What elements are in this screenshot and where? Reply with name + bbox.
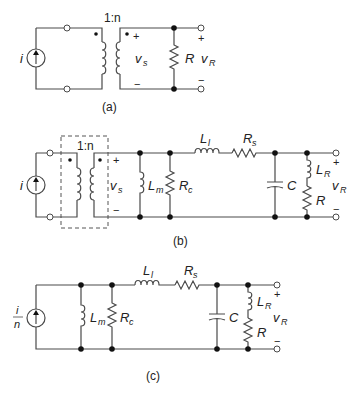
svg-text:n: n [14, 318, 20, 330]
svg-text:+: + [113, 154, 119, 166]
core-loss-resistor-icon [166, 153, 174, 217]
turns-ratio-label: 1:n [104, 11, 121, 25]
svg-text:v: v [332, 178, 340, 193]
current-source-icon [27, 176, 45, 194]
magnetizing-inductor-icon [140, 153, 144, 217]
svg-text:R: R [257, 325, 266, 340]
svg-text:s: s [118, 185, 123, 195]
svg-text:L: L [143, 263, 150, 278]
svg-text:R: R [316, 193, 325, 208]
svg-text:R: R [184, 263, 193, 278]
svg-text:+: + [333, 156, 339, 168]
secondary-coil-icon [116, 42, 120, 74]
current-source-icon [27, 309, 45, 327]
turns-ratio-label: 1:n [77, 139, 94, 153]
svg-text:R: R [179, 178, 188, 193]
svg-text:c: c [129, 317, 134, 327]
polarity-dot-icon [94, 32, 98, 36]
core-loss-resistor-icon [108, 285, 116, 349]
svg-text:L: L [90, 310, 97, 325]
vs-label: v [110, 178, 118, 193]
svg-text:L: L [148, 178, 155, 193]
caption-c: (c) [146, 369, 160, 383]
svg-text:C: C [287, 178, 297, 193]
leakage-inductor-icon [135, 281, 175, 286]
svg-text:−: − [113, 204, 119, 216]
secondary-coil-icon [90, 168, 94, 200]
capacitor-icon [209, 285, 225, 349]
svg-text:v: v [273, 310, 281, 325]
minus-sign: − [134, 78, 140, 90]
svg-text:−: − [198, 74, 204, 86]
svg-text:C: C [229, 310, 239, 325]
svg-text:R: R [209, 58, 216, 68]
terminal-icon [47, 214, 53, 220]
svg-text:R: R [265, 301, 272, 311]
vr-label: v [201, 51, 209, 66]
svg-text:l: l [208, 138, 211, 148]
terminal-icon [64, 86, 70, 92]
svg-text:R: R [340, 185, 347, 195]
resistor-icon [170, 28, 178, 89]
svg-text:L: L [257, 294, 264, 309]
svg-text:R: R [281, 317, 288, 327]
r-label: R [185, 51, 194, 66]
terminal-icon [64, 25, 70, 31]
svg-text:s: s [193, 270, 198, 280]
output-terminal-icon [198, 25, 204, 31]
svg-text:L: L [200, 131, 207, 146]
load-resistor-icon [244, 318, 252, 349]
load-inductor-icon [307, 153, 311, 186]
svg-text:m: m [98, 317, 106, 327]
series-resistor-icon [232, 149, 333, 157]
svg-text:−: − [333, 203, 339, 215]
leakage-inductor-icon [195, 149, 232, 154]
svg-text:+: + [274, 288, 280, 300]
circuit-figure: i 1:n + − v s R + − v R (a) [0, 0, 358, 394]
svg-text:−: − [274, 335, 280, 347]
panel-a: i 1:n + − v s R + − v R (a) [20, 11, 216, 114]
panel-b: i 1:n + − v s L m R c L l R s C [20, 131, 347, 248]
svg-text:c: c [188, 185, 193, 195]
svg-text:R: R [120, 310, 129, 325]
primary-coil-icon [102, 42, 106, 74]
panel-c: i n L m R c L l R s C L R R + − v [13, 263, 288, 383]
svg-text:m: m [156, 185, 164, 195]
primary-coil-icon [77, 168, 81, 200]
output-terminal-icon [198, 86, 204, 92]
svg-text:s: s [143, 58, 148, 68]
magnetizing-inductor-icon [81, 285, 85, 349]
load-inductor-icon [248, 285, 252, 318]
plus-sign: + [133, 30, 139, 42]
svg-text:+: + [198, 32, 204, 44]
terminal-icon [47, 150, 53, 156]
series-resistor-icon [175, 281, 274, 289]
svg-text:L: L [316, 162, 323, 177]
svg-text:R: R [243, 131, 252, 146]
capacitor-icon [267, 153, 283, 217]
svg-text:R: R [324, 169, 331, 179]
vs-label: v [135, 51, 143, 66]
current-source-icon [27, 49, 45, 67]
load-resistor-icon [303, 186, 311, 217]
source-label: i [20, 178, 24, 193]
svg-text:l: l [151, 270, 154, 280]
svg-text:s: s [252, 138, 257, 148]
svg-text:i: i [16, 304, 19, 316]
caption-a: (a) [102, 100, 117, 114]
caption-b: (b) [173, 234, 188, 248]
polarity-dot-icon [125, 32, 129, 36]
source-label: i [20, 51, 24, 66]
